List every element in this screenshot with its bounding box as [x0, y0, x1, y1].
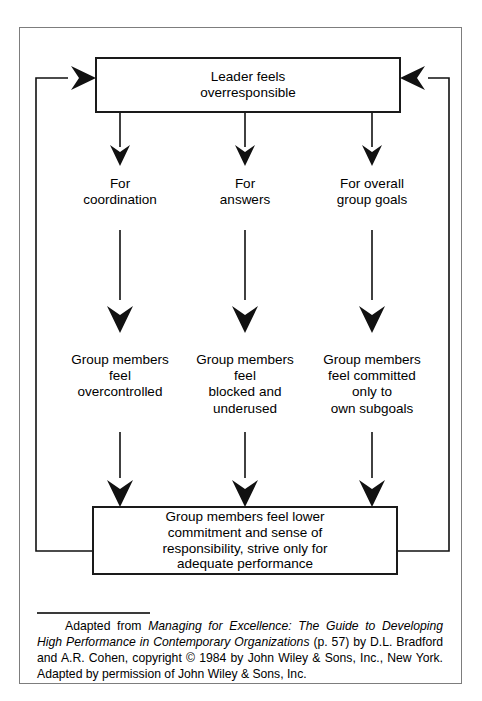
reason-2-line1: For overall — [340, 176, 404, 191]
node-effect-blocked-underused: Group members feel blocked and underused — [182, 352, 308, 417]
figure-caption: Adapted from Managing for Excellence: Th… — [37, 618, 443, 682]
effect-2-line4: own subgoals — [331, 401, 414, 416]
effect-1-line2: feel — [234, 368, 256, 383]
effect-0-line3: overcontrolled — [78, 384, 163, 399]
effect-1-line3: blocked and — [209, 384, 282, 399]
node-reason-answers: For answers — [185, 176, 305, 208]
effect-2-line1: Group members — [323, 352, 421, 367]
effect-0-line1: Group members — [71, 352, 169, 367]
node-effect-overcontrolled: Group members feel overcontrolled — [57, 352, 183, 401]
effect-1-line1: Group members — [196, 352, 294, 367]
node-leader-line2: overresponsible — [200, 85, 295, 100]
reason-1-line2: answers — [220, 192, 270, 207]
copyright-icon: © — [186, 651, 195, 665]
node-effect-own-subgoals: Group members feel committed only to own… — [309, 352, 435, 417]
effect-2-line3: only to — [352, 384, 392, 399]
outcome-line3: responsibility, strive only for — [163, 541, 328, 556]
node-reason-group-goals: For overall group goals — [312, 176, 432, 208]
outcome-line2: commitment and sense of — [168, 525, 323, 540]
figure-page: Leader feels overresponsible For coordin… — [0, 0, 482, 701]
effect-1-line4: underused — [213, 401, 277, 416]
reason-2-line2: group goals — [337, 192, 408, 207]
outcome-line1: Group members feel lower — [165, 509, 324, 524]
effect-0-line2: feel — [109, 368, 131, 383]
effect-2-line2: feel committed — [328, 368, 416, 383]
reason-0-line2: coordination — [83, 192, 157, 207]
node-leader-feels-overresponsible: Leader feels overresponsible — [95, 57, 401, 113]
caption-part1: Adapted from — [65, 619, 148, 633]
reason-1-line1: For — [235, 176, 255, 191]
outcome-line4: adequate performance — [177, 556, 313, 571]
node-reason-coordination: For coordination — [60, 176, 180, 208]
caption-rule — [37, 612, 150, 614]
node-leader-line1: Leader feels — [211, 69, 285, 84]
reason-0-line1: For — [110, 176, 130, 191]
node-outcome-lower-commitment: Group members feel lower commitment and … — [92, 506, 398, 575]
